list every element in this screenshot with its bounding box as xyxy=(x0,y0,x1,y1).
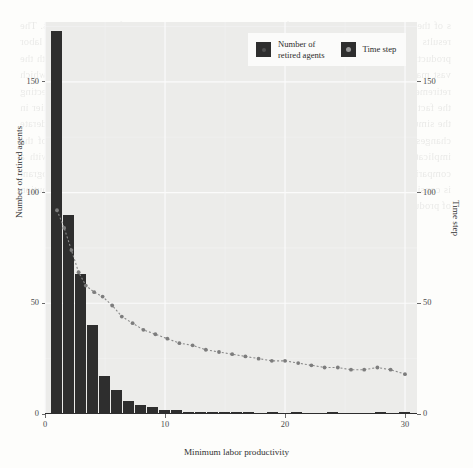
time-step-point xyxy=(336,366,340,370)
legend-label-retired-agents: Number of retired agents xyxy=(278,39,325,60)
time-step-point xyxy=(403,372,407,376)
x-axis-tick-label: 20 xyxy=(281,420,289,429)
time-step-point xyxy=(101,295,105,299)
y-axis-right-tick-mark xyxy=(417,81,421,82)
time-step-point xyxy=(70,248,74,252)
y-axis-left-tick-mark xyxy=(42,81,46,82)
x-axis-title: Minimum labor productivity xyxy=(0,447,473,457)
time-step-point xyxy=(62,226,66,230)
time-step-series xyxy=(45,22,417,414)
time-step-point xyxy=(244,355,248,359)
legend-item-time-step[interactable]: Time step xyxy=(341,42,397,57)
time-step-point xyxy=(362,368,366,372)
x-axis-tick-mark xyxy=(45,414,46,418)
y-axis-left-tick-mark xyxy=(42,303,46,304)
time-step-point xyxy=(310,363,314,367)
x-axis-tick-label: 10 xyxy=(161,420,169,429)
legend-label-line1: Time step xyxy=(363,44,397,55)
y-axis-left-tick-label: 150 xyxy=(0,77,39,86)
y-axis-right-tick-label: 50 xyxy=(423,298,431,307)
x-axis-tick-label: 0 xyxy=(43,420,47,429)
time-step-point xyxy=(270,359,274,363)
x-axis-tick-mark xyxy=(165,414,166,418)
time-step-point xyxy=(217,350,221,354)
x-axis-tick-mark xyxy=(285,414,286,418)
time-step-point xyxy=(389,368,393,372)
time-step-point xyxy=(376,366,380,370)
legend-item-retired-agents[interactable]: Number of retired agents xyxy=(256,39,325,60)
time-step-point xyxy=(120,315,124,319)
y-axis-left-tick-mark xyxy=(42,192,46,193)
time-step-point xyxy=(296,361,300,365)
time-step-point xyxy=(84,284,88,288)
time-step-point xyxy=(154,332,158,336)
y-axis-right-tick-mark xyxy=(417,303,421,304)
time-step-point xyxy=(55,208,59,212)
y-axis-right-tick-label: 150 xyxy=(423,77,436,86)
time-step-point xyxy=(191,343,195,347)
legend-key-bar-icon xyxy=(256,42,271,57)
plot-panel xyxy=(45,22,417,414)
y-axis-left-tick-label: 50 xyxy=(0,298,39,307)
time-step-point xyxy=(142,328,146,332)
y-axis-right-tick-label: 100 xyxy=(423,188,436,197)
time-step-point xyxy=(257,357,261,361)
time-step-line xyxy=(57,210,405,374)
legend-key-line-icon xyxy=(341,42,356,57)
time-step-point xyxy=(166,337,170,341)
time-step-point xyxy=(110,304,114,308)
time-step-point xyxy=(230,352,234,356)
time-step-point xyxy=(92,290,96,294)
time-step-point xyxy=(77,270,81,274)
legend-label-time-step: Time step xyxy=(363,44,397,55)
y-axis-right-tick-mark xyxy=(417,192,421,193)
time-step-point xyxy=(283,359,287,363)
time-step-point xyxy=(131,321,135,325)
legend-label-line2: retired agents xyxy=(278,50,325,61)
y-axis-left-title: Number of retired agents xyxy=(14,126,24,218)
y-axis-right-tick-mark xyxy=(417,414,421,415)
legend-label-line1: Number of xyxy=(278,39,325,50)
time-step-point xyxy=(323,366,327,370)
y-axis-left-tick-label: 0 xyxy=(0,409,39,418)
time-step-point xyxy=(178,341,182,345)
x-axis-tick-label: 30 xyxy=(401,420,409,429)
x-axis-tick-mark xyxy=(405,414,406,418)
chart-legend: Number of retired agents Time step xyxy=(248,33,406,66)
y-axis-right-tick-label: 0 xyxy=(423,409,427,418)
y-axis-right-title: Time step xyxy=(451,200,461,236)
time-step-point xyxy=(349,368,353,372)
time-step-point xyxy=(204,348,208,352)
chart-figure: s of the model and the calibration of th… xyxy=(0,0,473,468)
